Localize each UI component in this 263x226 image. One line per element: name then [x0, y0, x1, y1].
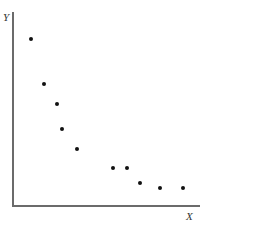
data-point [60, 127, 64, 131]
x-axis-label: X [186, 210, 193, 222]
x-axis [12, 205, 200, 207]
y-axis-label: Y [3, 11, 9, 23]
y-axis [12, 12, 14, 206]
data-point [138, 181, 142, 185]
data-point [75, 147, 79, 151]
data-point [55, 102, 59, 106]
data-point [158, 186, 162, 190]
data-point [29, 37, 33, 41]
data-point [42, 82, 46, 86]
data-point [111, 166, 115, 170]
data-point [125, 166, 129, 170]
data-point [181, 186, 185, 190]
